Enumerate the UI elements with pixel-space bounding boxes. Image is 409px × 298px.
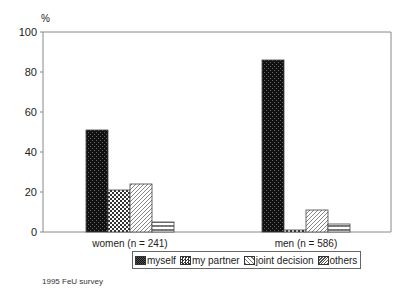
bar-my-partner: [108, 190, 130, 232]
y-tick-label: 40: [25, 146, 37, 158]
legend-label: myself: [147, 255, 176, 266]
bars: [86, 60, 350, 232]
legend-item-my-partner: my partner: [180, 255, 240, 266]
x-category-label: men (n = 586): [275, 238, 338, 249]
y-tick-label: 100: [19, 26, 37, 38]
legend-item-joint-decision: joint decision: [244, 255, 314, 266]
y-tick-label: 80: [25, 66, 37, 78]
footnote: 1995 FeU survey: [42, 277, 103, 286]
x-category-label: women (n = 241): [91, 238, 167, 249]
bar-others: [152, 222, 174, 232]
bar-my-partner: [284, 230, 306, 232]
legend-swatch: [318, 256, 329, 265]
bar-myself: [262, 60, 284, 232]
legend-swatch: [135, 256, 146, 265]
bar-joint-decision: [306, 210, 328, 232]
legend-label: joint decision: [256, 255, 314, 266]
bar-myself: [86, 130, 108, 232]
y-tick-label: 20: [25, 186, 37, 198]
legend-swatch: [244, 256, 255, 265]
legend-item-myself: myself: [135, 255, 176, 266]
bar-chart: 020406080100%women (n = 241)men (n = 586…: [0, 0, 409, 250]
bar-others: [328, 224, 350, 232]
y-tick-label: 0: [31, 226, 37, 238]
axes: 020406080100%women (n = 241)men (n = 586…: [19, 13, 391, 249]
legend-label: others: [330, 255, 358, 266]
bar-joint-decision: [130, 184, 152, 232]
y-tick-label: 60: [25, 106, 37, 118]
legend: myselfmy partnerjoint decisionothers: [132, 251, 361, 269]
legend-label: my partner: [192, 255, 240, 266]
legend-item-others: others: [318, 255, 358, 266]
legend-swatch: [180, 256, 191, 265]
y-axis-label: %: [41, 13, 50, 24]
